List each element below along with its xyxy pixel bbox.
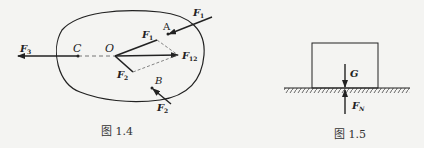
label-g: G: [350, 68, 359, 79]
label-f2: F2: [156, 102, 168, 114]
label-f1-inner: F1: [141, 29, 153, 41]
label-f3: F3: [19, 43, 31, 55]
label-point-o: O: [105, 42, 114, 55]
parallelogram-dashed-bottom: [133, 55, 178, 72]
force-f1-inner-arrow: [115, 40, 157, 56]
label-point-c: C: [73, 42, 82, 55]
force-f1-arrow: [169, 17, 212, 34]
label-f12: F12: [181, 50, 197, 62]
label-fn: FN: [351, 100, 365, 112]
ground-hatching: [284, 88, 410, 93]
diagram-canvas: F3 C O F1 F2 F12 A F1 B F2 图 1.4 G FN 图 …: [0, 0, 424, 148]
label-f2-inner: F2: [116, 69, 128, 81]
caption-figure-1-4: 图 1.4: [101, 125, 133, 138]
parallelogram-dashed-top: [157, 40, 178, 55]
label-point-b: B: [154, 75, 162, 86]
label-point-a: A: [162, 21, 171, 32]
label-f1: F1: [192, 7, 204, 19]
force-f12-arrow: [115, 55, 178, 56]
caption-figure-1-5: 图 1.5: [334, 128, 366, 141]
figure-1-5: G FN 图 1.5: [284, 43, 410, 141]
figure-1-4: F3 C O F1 F2 F12 A F1 B F2 图 1.4: [18, 7, 212, 138]
point-b-dot: [151, 87, 154, 90]
point-a-dot: [167, 33, 170, 36]
